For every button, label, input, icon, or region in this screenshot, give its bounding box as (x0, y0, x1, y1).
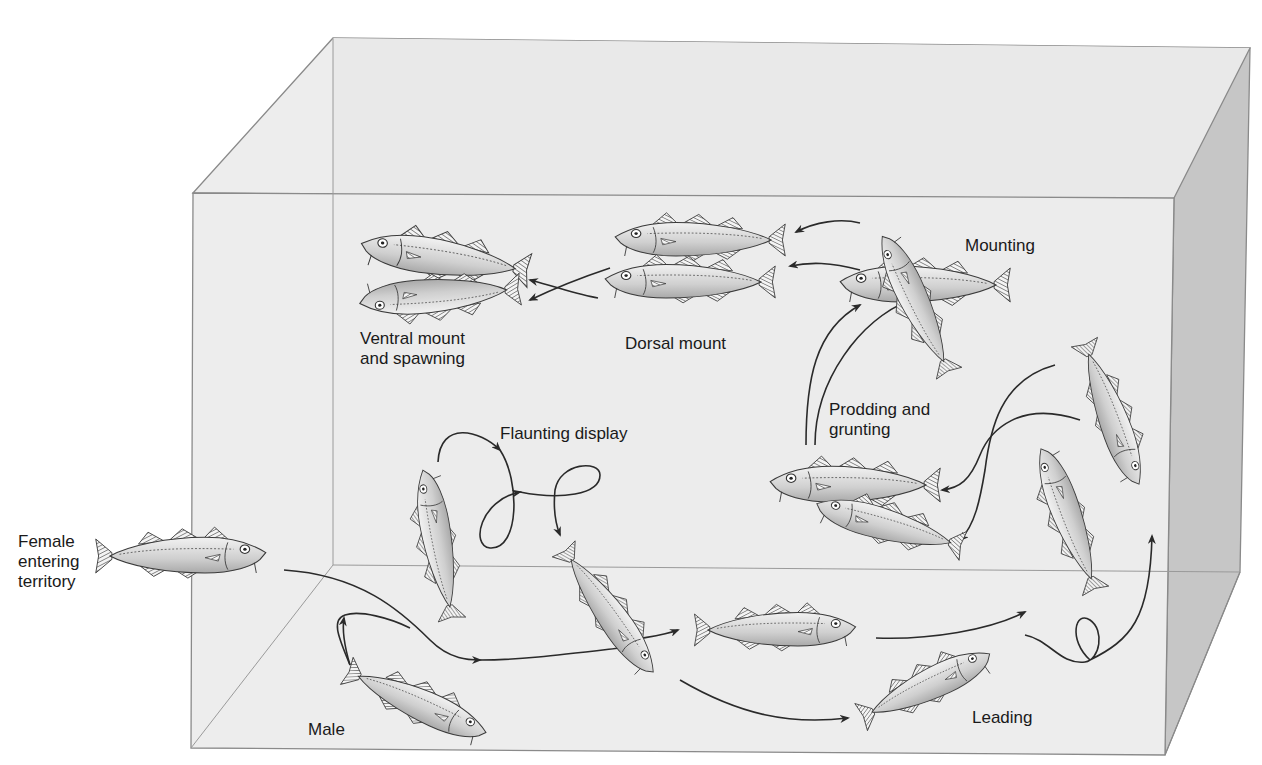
label-male: Male (308, 720, 345, 740)
label-dorsal-mount: Dorsal mount (625, 334, 726, 354)
label-mounting: Mounting (965, 236, 1035, 256)
label-leading: Leading (972, 708, 1033, 728)
tank-diagram (0, 0, 1262, 765)
label-flaunting-display: Flaunting display (500, 424, 628, 444)
label-female-entering-territory: Female entering territory (18, 532, 79, 592)
label-prodding-and-grunting: Prodding and grunting (829, 400, 930, 440)
label-ventral-mount-and-spawning: Ventral mount and spawning (360, 329, 465, 369)
